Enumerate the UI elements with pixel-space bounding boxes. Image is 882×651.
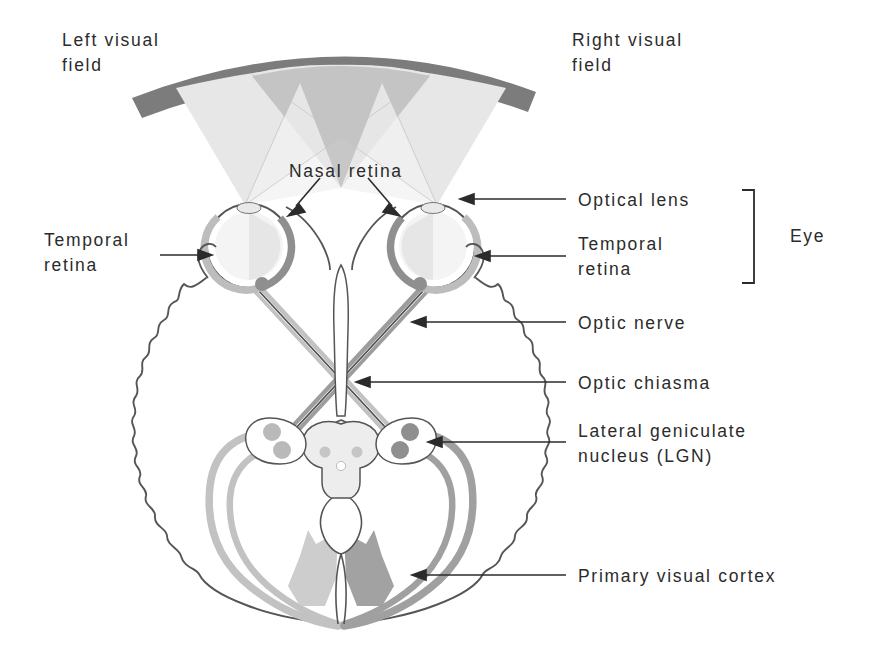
visual-pathway-diagram bbox=[0, 0, 882, 651]
label-left-visual-field: Left visual field bbox=[62, 28, 160, 78]
leader-optic-nerve bbox=[412, 317, 566, 327]
leader-temporal-retina-right bbox=[476, 251, 566, 261]
label-optic-nerve: Optic nerve bbox=[578, 311, 686, 336]
eye-bracket bbox=[742, 190, 754, 283]
label-temporal-retina-left: Temporal retina bbox=[44, 228, 130, 278]
label-optical-lens: Optical lens bbox=[578, 188, 690, 213]
leader-temporal-retina-left bbox=[160, 250, 212, 260]
leader-optical-lens bbox=[460, 194, 566, 204]
label-optic-chiasma: Optic chiasma bbox=[578, 371, 711, 396]
label-temporal-retina-right: Temporal retina bbox=[578, 232, 664, 282]
figure-canvas: Left visual field Right visual field Nas… bbox=[0, 0, 882, 651]
label-eye-bracket: Eye bbox=[790, 224, 825, 249]
left-eye bbox=[204, 203, 291, 292]
label-primary-visual-cortex: Primary visual cortex bbox=[578, 564, 776, 589]
label-nasal-retina: Nasal retina bbox=[289, 159, 403, 184]
leader-optic-chiasma bbox=[356, 377, 566, 387]
label-lateral-geniculate-nucleus: Lateral geniculate nucleus (LGN) bbox=[578, 419, 747, 469]
label-right-visual-field: Right visual field bbox=[572, 28, 683, 78]
right-eye bbox=[390, 203, 477, 292]
leader-primary-visual-cortex bbox=[412, 570, 566, 580]
midbrain-structure bbox=[303, 422, 380, 500]
